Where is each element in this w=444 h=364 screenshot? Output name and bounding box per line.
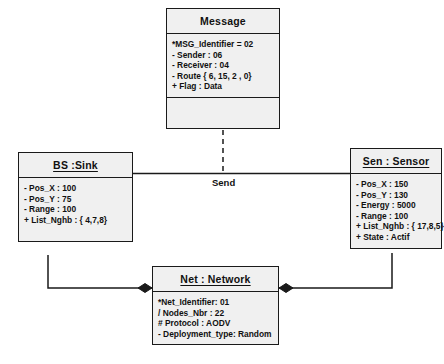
attribute-row: *Net_Identifier: 01: [158, 297, 274, 308]
uml-class-diagram: Message *MSG_Identifier = 02 - Sender : …: [0, 0, 444, 364]
operations-compartment-message: [167, 98, 279, 128]
attribute-row: - Energy : 5000: [356, 200, 437, 211]
attribute-row: - Pos_Y : 130: [356, 190, 437, 201]
attributes-compartment-sensor: - Pos_X : 150 - Pos_Y : 130 - Energy : 5…: [351, 174, 441, 248]
attributes-compartment-message: *MSG_Identifier = 02 - Sender : 06 - Rec…: [167, 34, 279, 98]
class-name-network: Net : Network: [153, 267, 278, 292]
class-name-sensor: Sen : Sensor: [351, 149, 441, 174]
uml-class-network[interactable]: Net : Network *Net_Identifier: 01 / Node…: [152, 266, 279, 345]
attribute-row: + Flag : Data: [172, 81, 275, 92]
attribute-row: - Pos_X : 100: [24, 183, 128, 194]
class-name-sink: BS :Sink: [19, 153, 132, 178]
attribute-row-spacer: [24, 225, 128, 236]
uml-class-message[interactable]: Message *MSG_Identifier = 02 - Sender : …: [166, 8, 280, 129]
uml-class-sensor[interactable]: Sen : Sensor - Pos_X : 150 - Pos_Y : 130…: [350, 148, 442, 249]
attribute-row: - Route { 6, 15, 2 , 0}: [172, 71, 275, 82]
attribute-row: - Receiver : 04: [172, 60, 275, 71]
attribute-row: + List_Nghb : { 4,7,8}: [24, 215, 128, 226]
attribute-row: - Sender : 06: [172, 50, 275, 61]
composition-line-sensor-network: [277, 253, 392, 288]
attribute-row: / Nodes_Nbr : 22: [158, 308, 274, 319]
attribute-row: + List_Nghb : { 17,8,5}: [356, 221, 437, 232]
attribute-row: # Protocol : AODV: [158, 318, 274, 329]
attributes-compartment-sink: - Pos_X : 100 - Pos_Y : 75 - Range : 100…: [19, 178, 132, 241]
attribute-row: + State : Actif: [356, 232, 437, 243]
attribute-row: - Deployment_type: Random: [158, 329, 274, 340]
attribute-row: - Pos_Y : 75: [24, 194, 128, 205]
attribute-row: *MSG_Identifier = 02: [172, 39, 275, 50]
attribute-row: - Pos_X : 150: [356, 179, 437, 190]
composition-diamond-sink: [138, 284, 152, 293]
attribute-row: - Range : 100: [24, 204, 128, 215]
association-label-send: Send: [212, 177, 235, 188]
attributes-compartment-network: *Net_Identifier: 01 / Nodes_Nbr : 22 # P…: [153, 292, 278, 344]
composition-line-sink-network: [48, 255, 154, 288]
composition-diamond-sensor: [279, 284, 293, 293]
class-name-message: Message: [167, 9, 279, 34]
uml-class-sink[interactable]: BS :Sink - Pos_X : 100 - Pos_Y : 75 - Ra…: [18, 152, 133, 242]
attribute-row: - Range : 100: [356, 211, 437, 222]
